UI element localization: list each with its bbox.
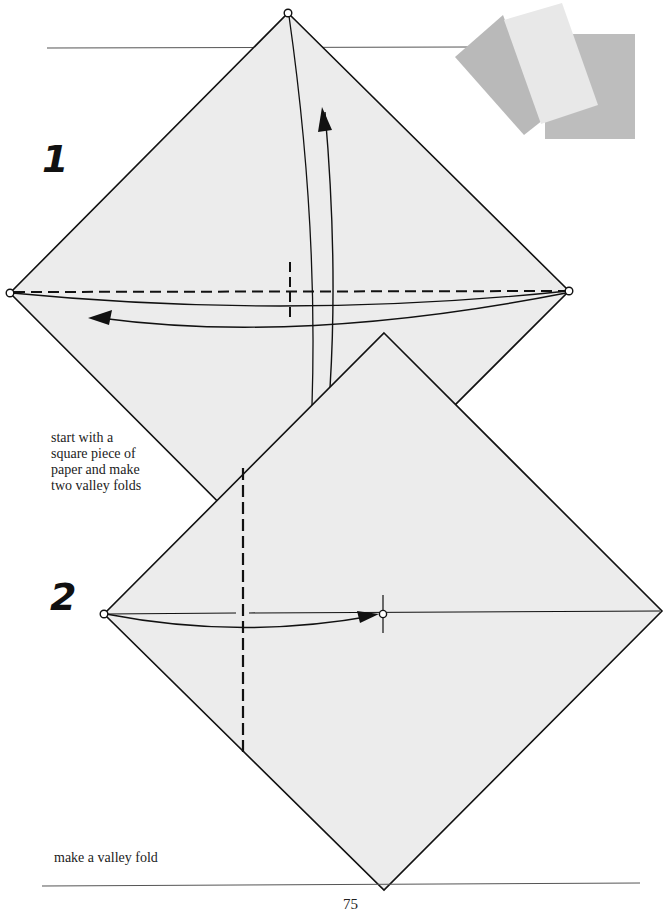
step-1-caption: start with a square piece of paper and m…	[51, 430, 141, 494]
caption-line: square piece of	[51, 446, 141, 462]
step-2-caption: make a valley fold	[54, 850, 158, 866]
caption-line: make a valley fold	[54, 850, 158, 866]
step-2-left-corner-marker	[100, 610, 108, 618]
step-1-number: 1	[42, 140, 68, 178]
step-2-target-marker	[379, 610, 386, 617]
step-1-top-corner-marker	[284, 9, 292, 17]
step-2-number: 2	[50, 578, 76, 616]
page-number: 75	[343, 896, 358, 913]
origami-instruction-page: 1 2 start with a square piece of paper a…	[0, 0, 672, 914]
paper-swatches-icon	[455, 3, 635, 139]
bottom-rule	[42, 883, 640, 886]
caption-line: paper and make	[51, 462, 141, 478]
caption-line: two valley folds	[51, 478, 141, 494]
step-1-right-corner-marker	[565, 287, 573, 295]
caption-line: start with a	[51, 430, 141, 446]
step-1-left-corner-marker	[6, 289, 14, 297]
